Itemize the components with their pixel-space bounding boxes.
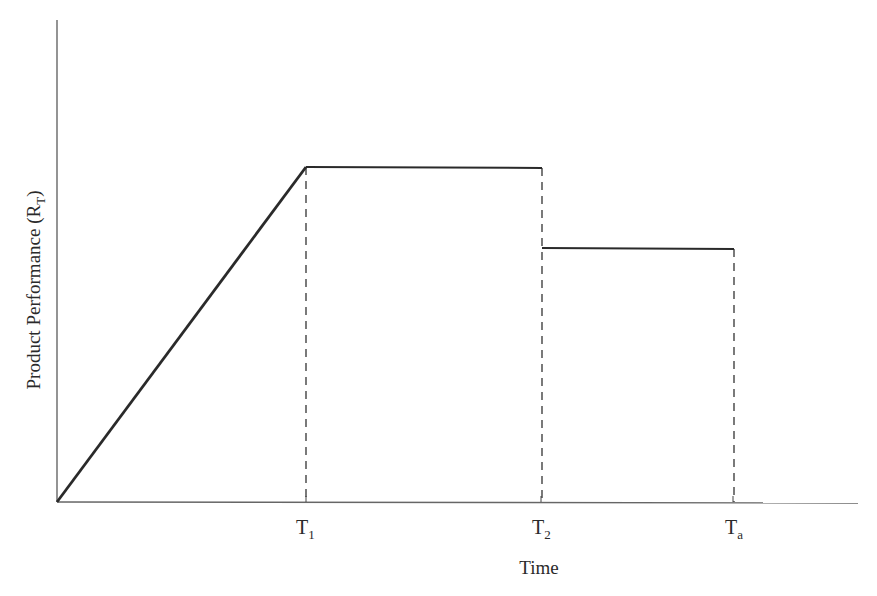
y-axis-label: Product Performance (RT): [23, 191, 48, 390]
x-axis-label: Time: [519, 557, 558, 578]
x-tick-label-t1: T1: [296, 516, 315, 542]
chart-canvas: Product Performance (RT) T1 T2 Ta Time: [0, 0, 877, 596]
x-tick-label-t2: T2: [532, 516, 551, 542]
lower-plateau-segment: [542, 248, 734, 249]
rise-segment: [57, 167, 306, 502]
x-tick-label-ta: Ta: [725, 516, 743, 542]
x-axis: [57, 502, 858, 503]
plateau-segment: [306, 167, 542, 168]
